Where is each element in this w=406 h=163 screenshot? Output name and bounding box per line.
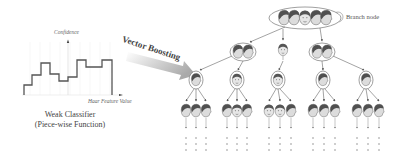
level3-to-level4-arrows xyxy=(186,89,379,101)
caption-title: Weak Classifier xyxy=(30,110,110,119)
caption-subtitle: (Piece-wise Function) xyxy=(30,120,110,129)
weak-classifier-chart xyxy=(22,40,123,97)
level3-nodes xyxy=(189,71,373,89)
diagram-canvas xyxy=(0,0,406,163)
x-axis-arrowhead-icon xyxy=(119,94,123,96)
single-node-center xyxy=(278,44,287,60)
y-axis-label: Confidence xyxy=(54,29,79,35)
continuation-dots xyxy=(185,137,379,150)
level4-down-arrows xyxy=(186,118,379,128)
x-axis-label: Haar Feature Value xyxy=(88,98,132,104)
legend-label: Branch node xyxy=(346,13,379,20)
y-axis-arrowhead-icon xyxy=(67,40,69,44)
level4-faces xyxy=(181,104,384,117)
chart-grid xyxy=(30,42,110,95)
detector-tree xyxy=(181,7,384,151)
